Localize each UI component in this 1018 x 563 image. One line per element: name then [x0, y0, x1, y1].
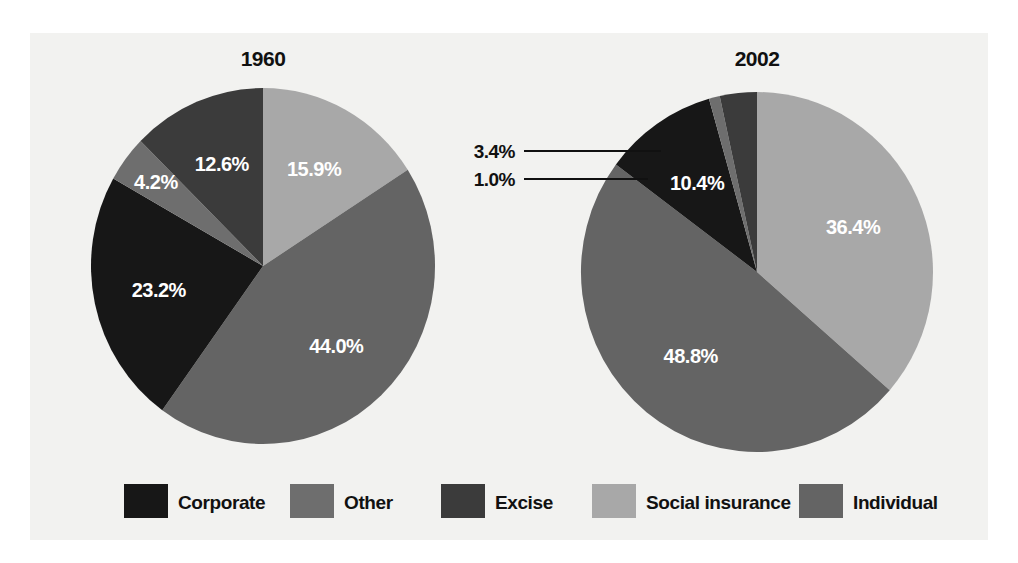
pie1-slice-group: [91, 88, 435, 444]
legend-swatch-other[interactable]: [290, 484, 334, 518]
figure-canvas: 1960 15.9%44.0%23.2%4.2%12.6% 2002 36.4%…: [0, 0, 1018, 563]
pie-slice-label-individual: 48.8%: [664, 345, 719, 367]
callout-label-other: 1.0%: [474, 169, 516, 190]
pie-chart-1960: 1960 15.9%44.0%23.2%4.2%12.6%: [91, 47, 435, 444]
pie-title-2002: 2002: [735, 47, 780, 70]
legend: CorporateOtherExciseSocial insuranceIndi…: [124, 484, 938, 518]
pie-slice-label-social-insurance: 36.4%: [826, 216, 881, 238]
legend-swatch-social-insurance[interactable]: [592, 484, 636, 518]
legend-label-individual: Individual: [853, 492, 938, 513]
legend-swatch-corporate[interactable]: [124, 484, 168, 518]
pie-charts-svg: 1960 15.9%44.0%23.2%4.2%12.6% 2002 36.4%…: [0, 0, 1018, 563]
pie-slice-label-corporate: 10.4%: [670, 172, 725, 194]
pie-chart-2002: 2002 36.4%48.8%10.4% 3.4%1.0%: [474, 47, 933, 452]
callout-label-excise: 3.4%: [474, 141, 516, 162]
pie2-slice-group: [581, 92, 933, 452]
legend-swatch-individual[interactable]: [799, 484, 843, 518]
pie-slice-label-excise: 12.6%: [195, 153, 250, 175]
pie-slice-label-corporate: 23.2%: [132, 279, 187, 301]
legend-label-social-insurance: Social insurance: [646, 492, 791, 513]
pie-slice-label-social-insurance: 15.9%: [287, 158, 342, 180]
pie-slice-label-individual: 44.0%: [309, 335, 364, 357]
legend-swatch-excise[interactable]: [441, 484, 485, 518]
legend-label-excise: Excise: [495, 492, 553, 513]
pie-slice-label-other: 4.2%: [134, 171, 178, 193]
pie-title-1960: 1960: [241, 47, 286, 70]
legend-label-other: Other: [344, 492, 394, 513]
legend-label-corporate: Corporate: [178, 492, 265, 513]
